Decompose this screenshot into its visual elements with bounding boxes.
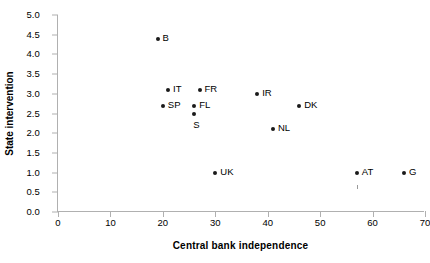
- data-point-marker: [166, 88, 170, 92]
- x-axis-tick-label: 30: [210, 218, 221, 228]
- data-point-label: G: [409, 167, 416, 177]
- data-point-marker: [192, 104, 196, 108]
- y-axis-tick-label: 2.5: [26, 109, 39, 119]
- data-point-label: NL: [278, 123, 290, 133]
- y-axis-tick: [52, 15, 58, 16]
- data-point-label: UK: [220, 167, 233, 177]
- y-axis-tick: [52, 172, 58, 173]
- data-point-label: IR: [262, 88, 272, 98]
- y-axis-tick: [52, 93, 58, 94]
- y-axis-tick: [52, 34, 58, 35]
- x-axis-tick-label: 50: [315, 218, 326, 228]
- data-point-marker: [297, 104, 301, 108]
- y-axis-title: State intervention: [2, 15, 16, 212]
- y-axis-tick-label: 3.5: [26, 69, 39, 79]
- x-axis-title: Central bank independence: [57, 240, 424, 251]
- y-axis-tick: [52, 133, 58, 134]
- data-point-label: B: [163, 33, 169, 43]
- y-axis-tick-label: 0.5: [26, 188, 39, 198]
- data-point-label: S: [193, 120, 199, 130]
- data-point-marker: [271, 127, 275, 131]
- x-axis-tick-label: 60: [367, 218, 378, 228]
- y-axis-tick-label: 0.0: [26, 207, 39, 217]
- scatter-chart: State intervention 0.00.51.01.52.02.53.0…: [0, 0, 430, 263]
- data-point-label: FR: [205, 84, 218, 94]
- y-axis-tick-label: 1.5: [26, 148, 39, 158]
- x-axis-tick-label: 10: [105, 218, 116, 228]
- y-axis-tick: [52, 152, 58, 153]
- y-axis-tick: [52, 74, 58, 75]
- y-axis-title-text: State intervention: [4, 71, 15, 155]
- data-point-marker: [355, 171, 359, 175]
- y-axis-tick: [52, 192, 58, 193]
- x-axis-tick-label: 70: [420, 218, 430, 228]
- data-point-label: AT: [362, 167, 373, 177]
- data-point-marker: [255, 92, 259, 96]
- data-point-marker: [198, 88, 202, 92]
- y-axis-tick-label: 4.0: [26, 50, 39, 60]
- data-point-label: DK: [304, 100, 317, 110]
- data-point-marker: [161, 104, 165, 108]
- y-axis-tick-label: 5.0: [26, 10, 39, 20]
- y-axis-tick-label: 1.0: [26, 168, 39, 178]
- x-axis-tick-label: 0: [55, 218, 60, 228]
- data-point-marker: [192, 112, 196, 116]
- data-point-marker: [402, 171, 406, 175]
- x-axis-tick-label: 40: [262, 218, 273, 228]
- stray-tick-mark: [357, 185, 358, 189]
- plot-area: 0.00.51.01.52.02.53.03.54.04.55.0 010203…: [57, 15, 424, 212]
- y-axis-tick-label: 4.5: [26, 30, 39, 40]
- data-point-marker: [156, 37, 160, 41]
- data-point-label: FL: [199, 100, 210, 110]
- y-axis-tick-label: 3.0: [26, 89, 39, 99]
- x-axis-tick-label: 20: [158, 218, 169, 228]
- y-axis-tick-label: 2.0: [26, 128, 39, 138]
- y-axis-tick: [52, 113, 58, 114]
- data-point-label: SP: [168, 100, 181, 110]
- data-point-marker: [213, 171, 217, 175]
- data-point-label: IT: [173, 84, 181, 94]
- y-axis-tick: [52, 54, 58, 55]
